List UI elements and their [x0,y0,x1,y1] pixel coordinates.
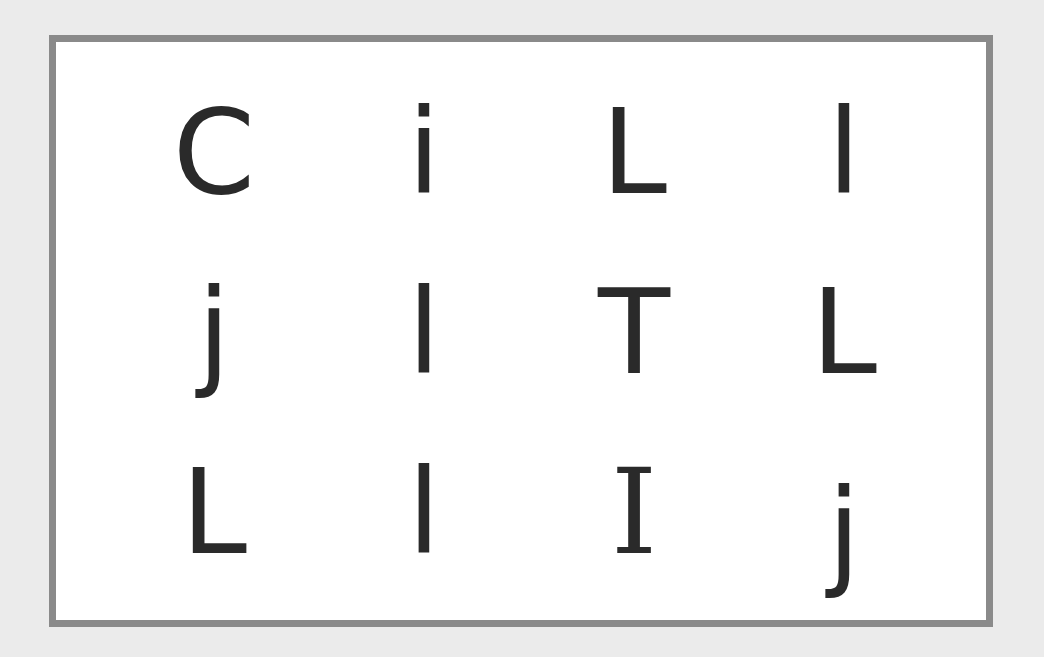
letter-cell-r3-c4[interactable]: j [774,452,914,612]
letter-cell-r3-c2[interactable]: l [354,432,494,592]
letter-grid-board: C i L l j l T L L l I j [49,35,993,627]
letter-cell-r3-c3[interactable]: I [564,432,704,592]
letter-cell-r2-c1[interactable]: j [144,252,284,412]
letter-cell-r1-c4[interactable]: l [774,72,914,232]
letter-cell-r2-c2[interactable]: l [354,252,494,412]
letter-cell-r1-c3[interactable]: L [564,72,704,232]
letter-cell-r1-c1[interactable]: C [144,72,284,232]
letter-cell-r2-c4[interactable]: L [774,252,914,412]
letter-cell-r1-c2[interactable]: i [354,72,494,232]
letter-cell-r2-c3[interactable]: T [564,252,704,412]
letter-cell-r3-c1[interactable]: L [144,432,284,592]
